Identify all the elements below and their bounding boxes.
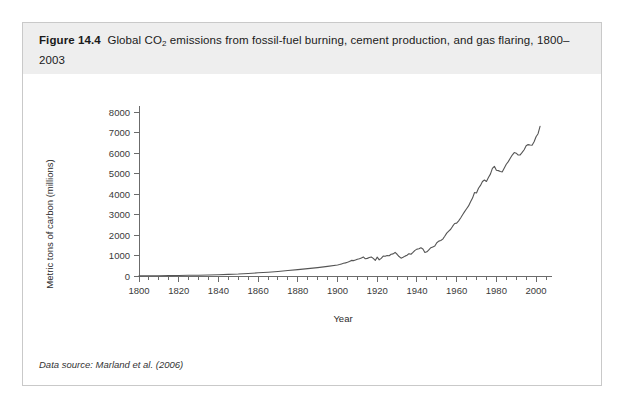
figure-card: Figure 14.4 Global CO2 emissions from fo… <box>22 22 602 386</box>
x-axis-tick-label: 1920 <box>367 285 388 296</box>
x-axis-tick-label: 2000 <box>526 285 547 296</box>
figure-caption-text-a: Global CO <box>107 34 162 46</box>
data-series-group <box>139 126 540 275</box>
y-axis-tick-label: 4000 <box>109 189 130 200</box>
y-axis-tick-label: 7000 <box>109 127 130 138</box>
data-source-note: Data source: Marland et al. (2006) <box>39 359 183 370</box>
y-axis: 010002000300040005000600070008000 <box>109 106 139 282</box>
x-axis-tick-label: 1900 <box>327 285 348 296</box>
x-axis-tick-label: 1980 <box>486 285 507 296</box>
x-axis-tick-label: 1940 <box>406 285 427 296</box>
x-axis-tick-label: 1860 <box>248 285 269 296</box>
y-axis-tick-label: 3000 <box>109 209 130 220</box>
y-axis-tick-label: 1000 <box>109 250 130 261</box>
y-axis-title: Metric tons of carbon (millions) <box>44 159 55 288</box>
y-axis-tick-label: 6000 <box>109 148 130 159</box>
chart-plot-area: 010002000300040005000600070008000 180018… <box>23 74 601 334</box>
emissions-line <box>139 126 540 275</box>
co2-emissions-line-chart: 010002000300040005000600070008000 180018… <box>23 74 602 334</box>
x-axis-tick-label: 1960 <box>446 285 467 296</box>
x-axis-tick-label: 1880 <box>287 285 308 296</box>
data-source-value: Marland et al. (2006) <box>96 359 184 370</box>
x-axis-tick-label: 1800 <box>128 285 149 296</box>
y-axis-tick-label: 0 <box>125 271 130 282</box>
data-source-label: Data source: <box>39 359 93 370</box>
figure-caption: Figure 14.4 Global CO2 emissions from fo… <box>39 32 579 68</box>
y-axis-tick-label: 8000 <box>109 107 130 118</box>
y-axis-tick-label: 5000 <box>109 168 130 179</box>
y-axis-tick-label: 2000 <box>109 230 130 241</box>
figure-number: Figure 14.4 <box>39 34 101 46</box>
x-axis-tick-label: 1820 <box>168 285 189 296</box>
x-axis-title: Year <box>333 313 352 324</box>
figure-caption-band: Figure 14.4 Global CO2 emissions from fo… <box>23 23 601 74</box>
x-axis: 1800182018401860188019001920194019601980… <box>128 276 552 296</box>
x-axis-tick-label: 1840 <box>208 285 229 296</box>
